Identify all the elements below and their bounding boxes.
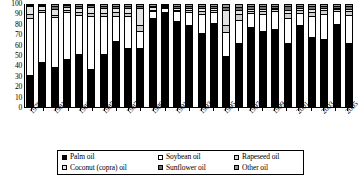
bar-segment-palm-oil	[247, 27, 255, 107]
bar-segment-palm-oil	[284, 43, 292, 107]
bar-2001[interactable]	[296, 4, 304, 107]
bar-segment-soybean-oil	[247, 13, 255, 26]
legend-swatch-palm-oil	[62, 155, 67, 160]
y-tick-label: 60	[0, 42, 22, 50]
chart-legend: Palm oil Soybean oil Rapeseed oil Coconu…	[57, 150, 304, 175]
bar-segment-palm-oil	[333, 24, 341, 107]
legend-label-sunflower-oil: Sunflower oil	[166, 164, 206, 172]
bar-segment-palm-oil	[345, 43, 353, 107]
legend-item-palm-oil[interactable]: Palm oil	[62, 152, 158, 163]
bar-segment-palm-oil	[100, 54, 108, 107]
bar-1987[interactable]	[124, 4, 132, 107]
bar-segment-palm-oil	[136, 48, 144, 107]
bar-segment-soybean-oil	[284, 18, 292, 43]
bar-2002[interactable]	[308, 4, 316, 107]
bar-segment-palm-oil	[63, 59, 71, 107]
legend-label-rapeseed-oil: Rapeseed oil	[242, 153, 279, 161]
y-tick-label: 20	[0, 83, 22, 91]
legend-swatch-coconut-oil	[62, 165, 67, 170]
bar-segment-palm-oil	[38, 62, 46, 107]
bar-1994[interactable]	[210, 4, 218, 107]
bar-segment-soybean-oil	[112, 16, 120, 41]
bar-1986[interactable]	[112, 4, 120, 107]
bar-2004[interactable]	[333, 4, 341, 107]
bar-segment-palm-oil	[124, 48, 132, 107]
bar-segment-soybean-oil	[235, 20, 243, 43]
bar-segment-soybean-oil	[308, 16, 316, 37]
bar-segment-soybean-oil	[271, 11, 279, 29]
bar-1997[interactable]	[247, 4, 255, 107]
bar-segment-soybean-oil	[296, 13, 304, 24]
bar-segment-soybean-oil	[198, 14, 206, 33]
bar-segment-coconut-copra-oil	[222, 10, 230, 24]
plot-area	[24, 4, 354, 108]
bar-1984[interactable]	[87, 4, 95, 107]
bar-segment-palm-oil	[235, 43, 243, 107]
legend-item-other-oil[interactable]: Other oil	[234, 163, 268, 174]
bar-1985[interactable]	[100, 4, 108, 107]
bar-1992[interactable]	[185, 4, 193, 107]
bar-1990[interactable]	[161, 4, 169, 107]
bar-segment-soybean-oil	[87, 16, 95, 69]
bar-segment-soybean-oil	[222, 32, 230, 56]
legend-swatch-other-oil	[234, 165, 239, 170]
bar-segment-coconut-copra-oil	[136, 8, 144, 24]
legend-item-soybean-oil[interactable]: Soybean oil	[158, 152, 234, 163]
bar-segment-soybean-oil	[320, 14, 328, 39]
bar-segment-soybean-oil	[26, 18, 34, 75]
bar-segment-coconut-copra-oil	[26, 6, 34, 14]
bar-segment-palm-oil	[75, 54, 83, 107]
x-axis-labels: 1979198119831985198719891991199319951997…	[24, 110, 354, 136]
bar-1980[interactable]	[38, 4, 46, 107]
bar-segment-palm-oil	[210, 23, 218, 107]
bar-segment-soybean-oil	[75, 15, 83, 54]
bar-1979[interactable]	[26, 4, 34, 107]
bar-segment-palm-oil	[222, 56, 230, 108]
bar-segment-soybean-oil	[333, 11, 341, 23]
legend-swatch-rapeseed-oil	[234, 155, 239, 160]
legend-label-coconut-oil: Coconut (copra) oil	[70, 164, 127, 172]
bar-1998[interactable]	[259, 4, 267, 107]
bar-1983[interactable]	[75, 4, 83, 107]
legend-item-rapeseed-oil[interactable]: Rapeseed oil	[234, 152, 279, 163]
bar-segment-palm-oil	[161, 12, 169, 107]
bar-segment-soybean-oil	[210, 12, 218, 22]
bar-segment-soybean-oil	[38, 12, 46, 61]
bar-segment-palm-oil	[271, 29, 279, 107]
bar-1988[interactable]	[136, 4, 144, 107]
bar-1982[interactable]	[63, 4, 71, 107]
y-tick-label: 10	[0, 94, 22, 102]
bar-segment-rapeseed-oil	[222, 25, 230, 32]
bar-1996[interactable]	[235, 4, 243, 107]
bar-segment-soybean-oil	[173, 11, 181, 20]
bar-segment-palm-oil	[198, 33, 206, 107]
legend-label-other-oil: Other oil	[242, 164, 268, 172]
y-tick-label: 70	[0, 31, 22, 39]
y-tick-label: 50	[0, 52, 22, 60]
bar-1991[interactable]	[173, 4, 181, 107]
bar-segment-palm-oil	[259, 31, 267, 107]
legend-swatch-sunflower-oil	[158, 165, 163, 170]
bar-2005[interactable]	[345, 4, 353, 107]
bar-2000[interactable]	[284, 4, 292, 107]
bar-segment-palm-oil	[149, 18, 157, 107]
bar-1995[interactable]	[222, 4, 230, 107]
bar-1999[interactable]	[271, 4, 279, 107]
bar-segment-soybean-oil	[124, 16, 132, 48]
legend-item-coconut-oil[interactable]: Coconut (copra) oil	[62, 163, 158, 174]
y-tick-label: 0	[0, 104, 22, 112]
legend-row-1: Palm oil Soybean oil Rapeseed oil	[62, 152, 299, 163]
bar-segment-soybean-oil	[63, 12, 71, 58]
bar-1993[interactable]	[198, 4, 206, 107]
bar-segment-soybean-oil	[185, 12, 193, 24]
bar-segment-palm-oil	[296, 25, 304, 107]
bar-segment-soybean-oil	[149, 11, 157, 18]
y-axis: 0102030405060708090100	[0, 4, 22, 108]
bar-2003[interactable]	[320, 4, 328, 107]
legend-row-2: Coconut (copra) oil Sunflower oil Other …	[62, 163, 299, 174]
stacked-bar-chart: 0102030405060708090100 19791981198319851…	[0, 0, 360, 179]
bar-segment-palm-oil	[185, 25, 193, 107]
legend-item-sunflower-oil[interactable]: Sunflower oil	[158, 163, 234, 174]
bar-1989[interactable]	[149, 4, 157, 107]
bar-1981[interactable]	[51, 4, 59, 107]
